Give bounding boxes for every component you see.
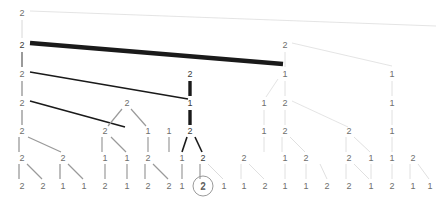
tree-edges-layer xyxy=(0,0,436,200)
tree-edge xyxy=(249,164,264,179)
tree-edge xyxy=(292,43,392,66)
tree-node-n26[interactable]: 2 xyxy=(145,154,150,163)
tree-edge xyxy=(320,164,327,179)
tree-node-n32[interactable]: 2 xyxy=(346,154,351,163)
tree-node-n14[interactable]: 2 xyxy=(102,127,107,136)
tree-edge xyxy=(354,164,369,179)
tree-node-l10[interactable]: 1 xyxy=(221,182,226,191)
tree-node-n16[interactable]: 1 xyxy=(166,127,171,136)
tree-edge xyxy=(418,164,429,179)
tree-edge xyxy=(131,109,146,126)
tree-edge xyxy=(111,137,126,152)
tree-node-n27[interactable]: 1 xyxy=(179,154,184,163)
tree-edge xyxy=(28,137,61,152)
tree-node-l15[interactable]: 2 xyxy=(324,182,329,191)
tree-node-n19[interactable]: 2 xyxy=(282,127,287,136)
tree-edge xyxy=(292,101,348,127)
tree-node-l2[interactable]: 1 xyxy=(60,182,65,191)
tree-edge xyxy=(68,164,83,179)
tree-node-n31[interactable]: 2 xyxy=(303,154,308,163)
tree-node-n0[interactable]: 2 xyxy=(19,9,24,18)
tree-node-l18[interactable]: 2 xyxy=(389,182,394,191)
tree-node-n25[interactable]: 1 xyxy=(124,154,129,163)
tree-node-n24[interactable]: 1 xyxy=(102,154,107,163)
tree-edge xyxy=(153,164,168,179)
tree-node-n3[interactable]: 2 xyxy=(19,70,24,79)
tree-edge xyxy=(30,43,283,64)
tree-edge xyxy=(30,11,436,26)
tree-edge xyxy=(27,164,42,179)
tree-edge xyxy=(354,137,370,152)
tree-node-n17[interactable]: 2 xyxy=(187,127,192,136)
tree-node-n7[interactable]: 2 xyxy=(19,99,24,108)
tree-node-n6[interactable]: 1 xyxy=(389,70,394,79)
tree-node-l1[interactable]: 2 xyxy=(40,182,45,191)
tree-node-l5[interactable]: 1 xyxy=(124,182,129,191)
tree-node-l20[interactable]: 1 xyxy=(427,182,432,191)
tree-node-l14[interactable]: 1 xyxy=(303,182,308,191)
tree-node-l11[interactable]: 1 xyxy=(241,182,246,191)
tree-node-n4[interactable]: 2 xyxy=(187,70,192,79)
tree-node-n13[interactable]: 2 xyxy=(19,127,24,136)
tree-node-n34[interactable]: 1 xyxy=(389,154,394,163)
tree-node-n30[interactable]: 1 xyxy=(282,154,287,163)
tree-node-n33[interactable]: 1 xyxy=(368,154,373,163)
tree-node-n12[interactable]: 1 xyxy=(389,99,394,108)
tree-node-n22[interactable]: 2 xyxy=(19,154,24,163)
selection-label: 2 xyxy=(200,181,206,192)
tree-node-n8[interactable]: 2 xyxy=(124,99,129,108)
tree-node-n21[interactable]: 1 xyxy=(389,127,394,136)
tree-node-n15[interactable]: 1 xyxy=(145,127,150,136)
tree-node-n5[interactable]: 1 xyxy=(282,70,287,79)
tree-node-l4[interactable]: 2 xyxy=(102,182,107,191)
tree-node-l3[interactable]: 1 xyxy=(81,182,86,191)
tree-node-n1[interactable]: 2 xyxy=(19,41,24,50)
tree-node-n28[interactable]: 2 xyxy=(200,154,205,163)
tree-node-l13[interactable]: 1 xyxy=(282,182,287,191)
tree-node-l8[interactable]: 1 xyxy=(179,182,184,191)
tree-node-n23[interactable]: 2 xyxy=(60,154,65,163)
tree-edge xyxy=(30,72,188,99)
tree-edge xyxy=(208,164,223,179)
tree-node-l16[interactable]: 2 xyxy=(346,182,351,191)
tree-node-n9[interactable]: 1 xyxy=(187,99,192,108)
tree-node-n10[interactable]: 1 xyxy=(261,99,266,108)
tree-edge xyxy=(195,137,202,152)
tree-node-n35[interactable]: 2 xyxy=(410,154,415,163)
tree-edge xyxy=(182,137,187,152)
tree-node-n11[interactable]: 2 xyxy=(282,99,287,108)
tree-node-n2[interactable]: 2 xyxy=(282,41,287,50)
tree-node-l0[interactable]: 2 xyxy=(19,182,24,191)
tree-edge xyxy=(266,79,278,97)
tree-node-l6[interactable]: 2 xyxy=(145,182,150,191)
tree-node-n20[interactable]: 2 xyxy=(346,127,351,136)
tree-node-n29[interactable]: 2 xyxy=(241,154,246,163)
tree-node-l7[interactable]: 2 xyxy=(166,182,171,191)
tree-node-n18[interactable]: 1 xyxy=(261,127,266,136)
tree-edge xyxy=(290,137,305,152)
tree-diagram-canvas: 2222211221121221121221221121221221122211… xyxy=(0,0,436,200)
tree-node-l12[interactable]: 2 xyxy=(262,182,267,191)
tree-node-l17[interactable]: 1 xyxy=(368,182,373,191)
tree-node-l19[interactable]: 1 xyxy=(410,182,415,191)
